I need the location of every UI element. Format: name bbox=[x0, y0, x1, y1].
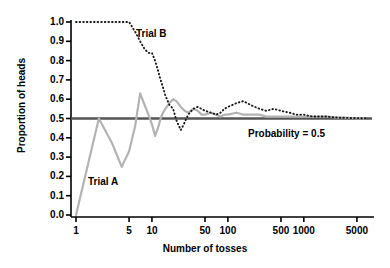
trial-b-path bbox=[76, 22, 366, 130]
series-line-trial-b bbox=[76, 22, 366, 130]
chart-plot-area bbox=[0, 0, 390, 268]
chart-figure: Proportion of heads Number of tosses 0.0… bbox=[0, 0, 390, 268]
